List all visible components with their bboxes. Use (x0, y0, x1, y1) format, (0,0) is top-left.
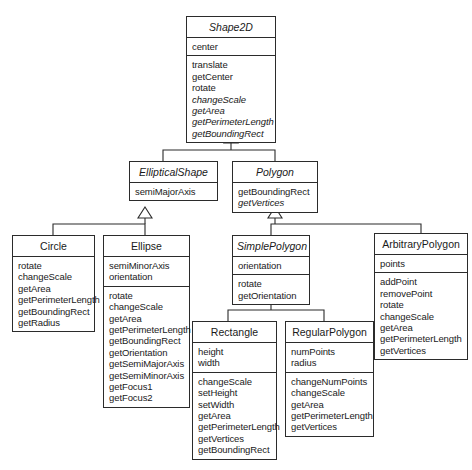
class-name-rectangle: Rectangle (193, 322, 276, 343)
operation-item: getPerimeterLength (192, 116, 271, 127)
uml-class-diagram: Shape2D center translate getCenter rotat… (0, 0, 472, 470)
class-name-simplepolygon: SimplePolygon (233, 236, 309, 257)
attributes-compartment-arbitrarypolygon: points (375, 255, 467, 273)
class-box-circle[interactable]: Circle rotate changeScale getArea getPer… (12, 235, 95, 332)
operation-item: getFocus2 (109, 392, 185, 403)
attribute-item: center (192, 41, 271, 52)
operation-item: getRadius (18, 317, 90, 328)
attribute-item: radius (291, 357, 369, 368)
operations-compartment-arbitrarypolygon: addPoint removePoint rotate changeScale … (375, 273, 467, 359)
operation-item: getArea (198, 410, 272, 421)
operation-item: setWidth (198, 399, 272, 410)
class-name-shape2d: Shape2D (187, 17, 275, 38)
attributes-compartment-simplepolygon: orientation (233, 257, 309, 275)
operation-item: getCenter (192, 71, 271, 82)
operations-compartment-rectangle: changeScale setHeight setWidth getArea g… (193, 373, 276, 459)
operation-item: getArea (380, 322, 463, 333)
attribute-item: orientation (238, 260, 305, 271)
operation-item: getPerimeterLength (291, 410, 369, 421)
operation-item: getBoundingRect (109, 335, 185, 346)
attribute-item: semiMinorAxis (109, 260, 185, 271)
class-box-rectangle[interactable]: Rectangle height width changeScale setHe… (192, 321, 277, 460)
operation-item: getPerimeterLength (109, 324, 185, 335)
operation-item: rotate (238, 278, 305, 289)
class-name-regularpolygon: RegularPolygon (286, 322, 373, 343)
class-box-arbitrarypolygon[interactable]: ArbitraryPolygon points addPoint removeP… (374, 233, 468, 360)
attributes-compartment-ellipticalshape: semiMajorAxis (130, 183, 217, 200)
operation-item: getArea (18, 283, 90, 294)
class-box-shape2d[interactable]: Shape2D center translate getCenter rotat… (186, 16, 276, 143)
operation-item: changeScale (380, 311, 463, 322)
attribute-item: semiMajorAxis (135, 186, 213, 197)
edge-bus-simplepolygon (228, 310, 324, 321)
operation-item: getArea (291, 399, 369, 410)
operation-item: removePoint (380, 288, 463, 299)
attributes-compartment-regularpolygon: numPoints radius (286, 343, 373, 373)
operations-compartment-polygon: getBoundingRect getVertices (233, 183, 317, 212)
operation-item: rotate (380, 299, 463, 310)
class-name-arbitrarypolygon: ArbitraryPolygon (375, 234, 467, 255)
class-box-ellipse[interactable]: Ellipse semiMinorAxis orientation rotate… (103, 235, 190, 408)
operation-item: changeScale (18, 271, 90, 282)
operations-compartment-regularpolygon: changeNumPoints changeScale getArea getP… (286, 373, 373, 436)
operation-item: getPerimeterLength (18, 294, 90, 305)
operation-item: getArea (109, 313, 185, 324)
operation-item: changeScale (198, 376, 272, 387)
operation-item: rotate (192, 82, 271, 93)
class-box-ellipticalshape[interactable]: EllipticalShape semiMajorAxis (129, 161, 218, 201)
class-box-simplepolygon[interactable]: SimplePolygon orientation rotate getOrie… (232, 235, 310, 305)
operation-item: rotate (109, 290, 185, 301)
operation-item: getBoundingRect (18, 306, 90, 317)
operation-item: getBoundingRect (192, 128, 271, 139)
edge-bus-ellipticalshape (53, 224, 145, 235)
operations-compartment-ellipse: rotate changeScale getArea getPerimeterL… (104, 287, 189, 407)
operation-item: translate (192, 59, 271, 70)
class-name-ellipse: Ellipse (104, 236, 189, 257)
operation-item: getFocus1 (109, 381, 185, 392)
attribute-item: width (198, 357, 272, 368)
class-box-polygon[interactable]: Polygon getBoundingRect getVertices (232, 161, 318, 213)
operation-item: getOrientation (238, 290, 305, 301)
operation-item: setHeight (198, 387, 272, 398)
attribute-item: height (198, 346, 272, 357)
class-box-regularpolygon[interactable]: RegularPolygon numPoints radius changeNu… (285, 321, 374, 437)
attributes-compartment-ellipse: semiMinorAxis orientation (104, 257, 189, 287)
operations-compartment-circle: rotate changeScale getArea getPerimeterL… (13, 257, 94, 331)
operation-item: changeScale (192, 94, 271, 105)
class-name-circle: Circle (13, 236, 94, 257)
operation-item: getBoundingRect (198, 444, 272, 455)
generalization-triangle-ellipticalshape (138, 207, 152, 218)
attribute-item: points (380, 258, 463, 269)
operation-item: changeScale (109, 301, 185, 312)
operation-item: getVertices (238, 197, 313, 208)
attributes-compartment-rectangle: height width (193, 343, 276, 373)
operation-item: getVertices (291, 421, 369, 432)
operation-item: getArea (192, 105, 271, 116)
class-name-polygon: Polygon (233, 162, 317, 183)
operation-item: changeScale (291, 387, 369, 398)
operation-item: getSemiMinorAxis (109, 370, 185, 381)
operation-item: getSemiMajorAxis (109, 358, 185, 369)
operation-item: getVertices (380, 345, 463, 356)
operations-compartment-simplepolygon: rotate getOrientation (233, 275, 309, 304)
operation-item: getPerimeterLength (380, 333, 463, 344)
operation-item: rotate (18, 260, 90, 271)
operation-item: getOrientation (109, 347, 185, 358)
operation-item: getVertices (198, 433, 272, 444)
class-name-ellipticalshape: EllipticalShape (130, 162, 217, 183)
attributes-compartment-shape2d: center (187, 38, 275, 56)
attribute-item: orientation (109, 271, 185, 282)
operation-item: getPerimeterLength (198, 421, 272, 432)
operation-item: getBoundingRect (238, 186, 313, 197)
operation-item: addPoint (380, 276, 463, 287)
attribute-item: numPoints (291, 346, 369, 357)
operations-compartment-shape2d: translate getCenter rotate changeScale g… (187, 56, 275, 142)
edge-bus-shape2d (163, 150, 275, 161)
operation-item: changeNumPoints (291, 376, 369, 387)
